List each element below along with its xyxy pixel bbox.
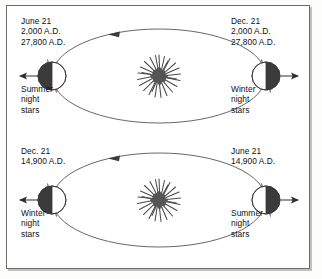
direction-arrow-right-icon xyxy=(281,197,299,204)
label-night: night xyxy=(21,218,46,228)
label-season: Summer xyxy=(21,84,53,94)
label-night: night xyxy=(21,94,53,104)
label-season: Summer xyxy=(231,208,263,218)
sun-starburst-icon xyxy=(138,179,181,222)
label-year-2: 27,800 A.D. xyxy=(231,37,275,47)
direction-arrow-left-icon xyxy=(19,73,38,80)
precession-diagram: June 21 2,000 A.D. 27,800 A.D. Summer ni… xyxy=(0,0,322,279)
label-date-block-top-right: Dec. 21 2,000 A.D. 27,800 A.D. xyxy=(231,16,275,47)
label-stars: stars xyxy=(231,229,263,239)
orbit-direction-arrow-icon xyxy=(108,32,120,38)
diagram-frame: June 21 2,000 A.D. 27,800 A.D. Summer ni… xyxy=(6,5,310,269)
label-year-1: 2,000 A.D. xyxy=(231,26,275,36)
label-stars: stars xyxy=(21,229,46,239)
label-date: Dec. 21 xyxy=(21,146,65,156)
label-season: Winter xyxy=(21,208,46,218)
panel-epoch-2000: June 21 2,000 A.D. 27,800 A.D. Summer ni… xyxy=(7,6,311,138)
label-date: Dec. 21 xyxy=(231,16,275,26)
label-date-block-top-left: June 21 2,000 A.D. 27,800 A.D. xyxy=(21,16,65,47)
orbit-direction-arrow-icon xyxy=(108,156,120,162)
label-date-block-bottom-left: Dec. 21 14,900 A.D. xyxy=(21,146,65,167)
label-night: night xyxy=(231,218,263,228)
label-date: June 21 xyxy=(21,16,65,26)
panel-epoch-14900: Dec. 21 14,900 A.D. Winter night stars J… xyxy=(7,138,311,270)
direction-arrow-right-icon xyxy=(281,73,299,80)
sun-starburst-icon xyxy=(138,55,181,98)
label-season: Winter xyxy=(231,84,256,94)
label-date: June 21 xyxy=(231,146,275,156)
label-year-1: 14,900 A.D. xyxy=(21,156,65,166)
label-stars-block-bottom-left: Winter night stars xyxy=(21,208,46,239)
label-stars: stars xyxy=(21,105,53,115)
label-stars-block-top-right: Winter night stars xyxy=(231,84,256,115)
label-date-block-bottom-right: June 21 14,900 A.D. xyxy=(231,146,275,167)
label-stars-block-bottom-right: Summer night stars xyxy=(231,208,263,239)
label-night: night xyxy=(231,94,256,104)
label-year-2: 27,800 A.D. xyxy=(21,37,65,47)
label-stars-block-top-left: Summer night stars xyxy=(21,84,53,115)
label-year-1: 2,000 A.D. xyxy=(21,26,65,36)
direction-arrow-left-icon xyxy=(19,197,38,204)
label-stars: stars xyxy=(231,105,256,115)
label-year-1: 14,900 A.D. xyxy=(231,156,275,166)
earth-globe-icon-right xyxy=(252,60,280,93)
